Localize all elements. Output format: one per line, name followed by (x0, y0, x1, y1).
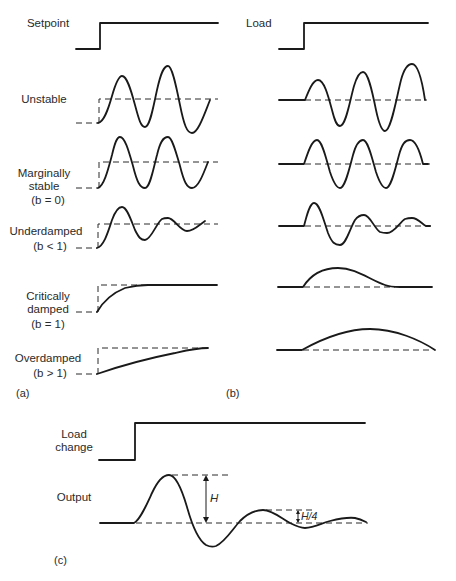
unstable-reference (76, 99, 218, 123)
response-diagram (0, 0, 456, 581)
load-overdamped-curve (277, 329, 435, 350)
load-underdamped-curve (279, 203, 430, 245)
critical-reference (76, 285, 218, 312)
setpoint-step (76, 23, 218, 49)
h-amplitude-arrow (203, 475, 209, 523)
unstable-curve (98, 66, 210, 133)
h-quarter-arrow (296, 510, 300, 523)
load-change-step (99, 423, 365, 460)
underdamped-curve (97, 207, 205, 248)
load-step (279, 23, 428, 49)
load-critical-curve (278, 268, 432, 287)
overdamped-curve (97, 348, 208, 374)
critical-curve (97, 285, 217, 312)
output-curve (100, 475, 366, 547)
load-unstable-curve (279, 64, 425, 131)
